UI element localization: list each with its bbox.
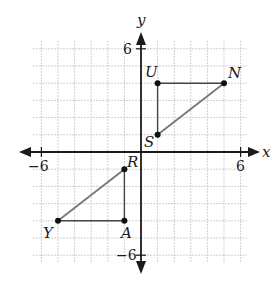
triangle-sun: U N S [144, 63, 242, 151]
x-max-label: 6 [236, 158, 245, 174]
label-a: A [119, 224, 132, 242]
y-axis-down-arrow-icon [136, 261, 146, 274]
x-axis-left-arrow-icon [19, 147, 31, 157]
y-max-label: 6 [123, 41, 132, 57]
label-u: U [145, 63, 159, 81]
label-n: N [227, 64, 242, 82]
y-axis-up-arrow-icon [136, 32, 146, 45]
y-axis-label: y [136, 11, 146, 29]
point-a [121, 218, 127, 224]
label-s: S [144, 133, 154, 151]
point-s [155, 132, 161, 138]
x-min-label: −6 [28, 158, 49, 174]
x-axis-right-arrow-icon [248, 147, 260, 157]
label-r: R [126, 153, 138, 171]
point-u [155, 80, 161, 86]
triangle-ray: R A Y [43, 153, 138, 242]
label-y: Y [43, 224, 55, 242]
point-y [55, 218, 61, 224]
x-axis-label: x [262, 143, 271, 161]
coordinate-plane: x y −6 6 6 −6 U N S R A Y [0, 0, 277, 281]
y-min-label: −6 [116, 247, 137, 263]
point-n [221, 80, 227, 86]
